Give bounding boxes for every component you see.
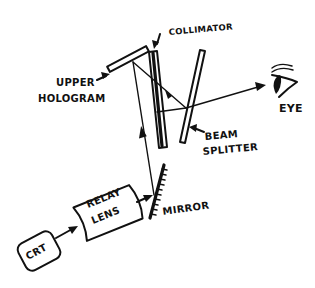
mirror-label: MIRROR [162, 200, 210, 217]
upper-hologram-label-2: HOLOGRAM [38, 93, 105, 104]
ray-to-hologram [133, 62, 154, 195]
upper-hologram [107, 46, 149, 72]
beam-splitter-label-1: BEAM [204, 128, 238, 142]
relay-lens-label-2: LENS [90, 204, 122, 225]
eye-label: EYE [279, 102, 303, 115]
collimator-label: COLLIMATOR [168, 21, 233, 37]
crt-label: CRT [24, 242, 49, 262]
crt-to-lens-arrow [56, 226, 78, 238]
upper-hologram-label-1: UPPER [56, 77, 95, 88]
hud-optics-diagram: CRT RELAY LENS MIRROR [0, 0, 315, 288]
collimator [149, 51, 167, 148]
collimator-pointer-arrow [152, 34, 160, 49]
lens-to-mirror-arrow [137, 195, 153, 202]
beam-splitter-label-2: SPLITTER [202, 141, 258, 157]
beam-splitter-pointer-arrow [189, 124, 204, 132]
upper-hologram-pointer-arrow [97, 72, 110, 80]
eye-icon [272, 64, 297, 97]
